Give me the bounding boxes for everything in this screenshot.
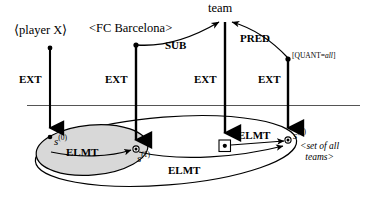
instance-sup-s2: (2) <box>297 127 306 136</box>
elmt-link-outer <box>139 146 283 157</box>
elmt-label-outer: ELMT <box>168 165 200 177</box>
arc-label-pred: PRED <box>240 33 270 45</box>
node-label-quant-all: [QUANT=all] <box>292 52 335 60</box>
ext-arrow-1 <box>48 46 53 128</box>
instance-label-s2: s(2) <box>293 130 306 142</box>
ext-arrow-2 <box>133 42 138 140</box>
ext-label-4: EXT <box>258 74 281 86</box>
quant-label-prefix: [QUANT= <box>292 51 325 60</box>
instance-sup-s0: (0) <box>58 133 67 142</box>
node-label-team: team <box>208 2 232 15</box>
instance-label-s1: s(1) <box>137 153 150 165</box>
arc-label-sub: SUB <box>165 40 186 52</box>
ext-label-1: EXT <box>19 74 42 86</box>
elmt-link-right <box>231 141 284 145</box>
instance-sup-s1: (1) <box>141 150 150 159</box>
ext-label-2: EXT <box>105 74 128 86</box>
node-dot-s0 <box>48 135 53 140</box>
ext-label-3: EXT <box>194 74 217 86</box>
elmt-label-inner: ELMT <box>66 147 98 159</box>
node-label-player-x: ⟨player X⟩ <box>14 24 67 37</box>
ext-arrow-4 <box>285 56 290 128</box>
quant-label-suffix: ] <box>333 51 336 60</box>
instance-label-s0: s(0) <box>54 136 67 148</box>
set-gloss-line-2: teams> <box>300 152 339 163</box>
node-dot-s2 <box>285 137 291 143</box>
set-gloss-line-1: <set of all <box>300 141 339 152</box>
element-box-node <box>219 140 231 152</box>
quant-label-value: all <box>325 51 333 60</box>
set-gloss: <set of all teams> <box>300 141 339 163</box>
elmt-label-right: ELMT <box>238 130 270 142</box>
diagram-canvas: ⟨player X⟩ <FC Barcelona> team [QUANT=al… <box>0 0 374 202</box>
node-label-fc-barcelona: <FC Barcelona> <box>89 22 172 35</box>
